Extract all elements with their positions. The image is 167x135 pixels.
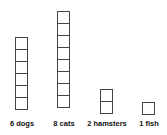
column-hamsters: [100, 89, 113, 114]
column-fish: [142, 102, 155, 115]
label-cats: 8 cats: [48, 119, 80, 128]
unit-square: [15, 97, 28, 110]
column-cats: [57, 11, 70, 108]
label-fish: 1 fish: [134, 119, 164, 128]
label-dogs: 6 dogs: [6, 119, 38, 128]
label-hamsters: 2 hamsters: [83, 119, 131, 128]
unit-square: [142, 102, 155, 115]
column-dogs: [15, 37, 28, 110]
unit-square: [57, 95, 70, 108]
unit-square: [100, 101, 113, 114]
